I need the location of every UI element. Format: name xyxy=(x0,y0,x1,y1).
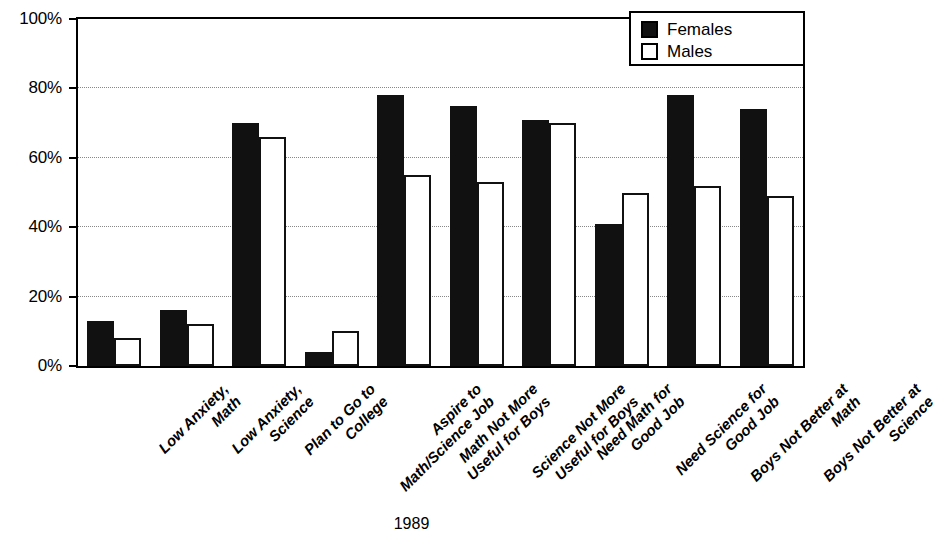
x-label-2: Plan to Go toCollege xyxy=(301,380,392,471)
bar-females-2 xyxy=(232,123,259,366)
legend-item-females: Females xyxy=(641,18,803,40)
y-tick-label-60: 60% xyxy=(0,149,62,166)
legend-swatch-males-icon xyxy=(641,43,658,60)
bar-females-7 xyxy=(595,224,622,366)
bar-females-6 xyxy=(522,120,549,366)
bar-males-5 xyxy=(477,182,504,366)
bar-males-2 xyxy=(259,137,286,366)
legend-label-females: Females xyxy=(667,21,732,38)
bar-males-0 xyxy=(114,338,141,366)
x-axis-title: 1989 xyxy=(0,515,823,533)
bar-females-3 xyxy=(305,352,332,366)
bar-males-3 xyxy=(332,331,359,366)
bar-females-8 xyxy=(667,95,694,366)
x-label-0: Low Anxiety,Math xyxy=(155,380,245,470)
y-tick-label-100: 100% xyxy=(0,10,62,27)
y-tick-mark-100 xyxy=(69,18,76,20)
y-tick-label-40: 40% xyxy=(0,218,62,235)
gridline-80 xyxy=(78,87,803,88)
plot-inner xyxy=(78,19,803,366)
legend-swatch-females-icon xyxy=(641,21,658,38)
y-tick-mark-0 xyxy=(69,365,76,367)
bar-males-1 xyxy=(187,324,214,366)
y-tick-mark-40 xyxy=(69,226,76,228)
bar-females-0 xyxy=(87,321,114,366)
bar-males-7 xyxy=(622,193,649,367)
bar-females-5 xyxy=(450,106,477,366)
gridline-60 xyxy=(78,157,803,158)
y-tick-label-20: 20% xyxy=(0,288,62,305)
legend-label-males: Males xyxy=(667,43,712,60)
x-axis-category-labels: Low Anxiety,MathLow Anxiety,SciencePlan … xyxy=(0,368,823,508)
bar-males-9 xyxy=(767,196,794,366)
y-tick-mark-20 xyxy=(69,296,76,298)
bar-males-6 xyxy=(549,123,576,366)
legend: Females Males xyxy=(629,11,805,66)
bar-females-9 xyxy=(740,109,767,366)
legend-item-males: Males xyxy=(641,40,803,62)
plot-area xyxy=(76,17,805,368)
y-axis: 0%20%40%60%80%100% xyxy=(0,0,76,385)
y-tick-mark-60 xyxy=(69,157,76,159)
y-tick-mark-80 xyxy=(69,87,76,89)
bar-females-1 xyxy=(160,310,187,366)
bar-males-4 xyxy=(404,175,431,366)
x-label-1: Low Anxiety,Science xyxy=(228,380,318,470)
bar-males-8 xyxy=(694,186,721,366)
bar-females-4 xyxy=(377,95,404,366)
y-tick-label-80: 80% xyxy=(0,79,62,96)
